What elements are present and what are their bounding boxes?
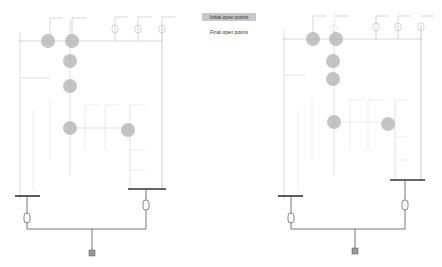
left-network-diagram (18, 17, 175, 200)
open-point (381, 117, 395, 131)
open-point (326, 72, 340, 86)
transformer-icon (402, 200, 408, 210)
right-network-diagram (282, 16, 434, 200)
open-point (121, 123, 135, 137)
open-point (306, 32, 320, 46)
distribution-network-diagrams (0, 0, 442, 267)
open-point (63, 79, 77, 93)
right-substation (278, 180, 425, 254)
left-open-points (41, 34, 135, 137)
open-point (41, 34, 55, 48)
open-point (326, 54, 340, 68)
grid-source-icon (352, 248, 358, 254)
grid-source-icon (89, 250, 95, 256)
legend-final-open-points: Final open points (202, 28, 256, 36)
open-point (327, 115, 341, 129)
right-open-points (306, 32, 395, 131)
left-substation (15, 189, 166, 256)
legend-initial-open-points: Initial open points (202, 13, 256, 21)
transformer-icon (24, 213, 30, 223)
open-point (63, 121, 77, 135)
transformer-icon (143, 200, 149, 210)
open-point (329, 32, 343, 46)
open-point (63, 54, 77, 68)
open-point (65, 34, 79, 48)
transformer-icon (288, 213, 294, 223)
